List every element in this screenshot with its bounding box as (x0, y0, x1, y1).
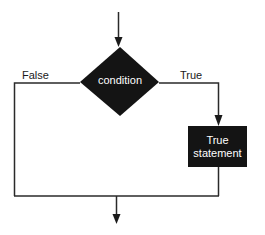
process-label-line2: statement (193, 147, 241, 160)
false-edge-label: False (22, 70, 49, 81)
entry-arrow (115, 12, 123, 47)
flowchart-connectors (0, 0, 265, 235)
true-branch-arrow (159, 83, 223, 126)
process-label-line1: True (206, 134, 228, 147)
flowchart-canvas: condition False True True statement (0, 0, 265, 235)
false-branch-line (15, 83, 81, 196)
true-edge-label: True (180, 70, 202, 81)
process-box-true-statement: True statement (188, 126, 247, 167)
decision-label: condition (82, 75, 158, 86)
exit-arrow (113, 196, 121, 224)
